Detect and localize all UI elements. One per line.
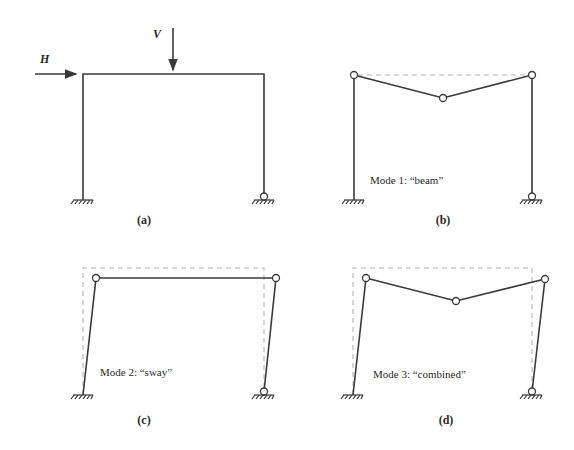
panel-c-caption: (c) [137,413,150,427]
mode-3-label: Mode 3: “combined” [373,368,466,380]
plastic-hinge-icon [93,275,100,282]
pin-support-icon [520,193,542,204]
panel-a-frame: H V (a) [35,27,274,227]
plastic-hinge-icon [363,275,370,282]
fixed-support-icon [71,395,93,399]
fixed-support-icon [71,200,93,204]
pin-support-icon [252,193,274,204]
left-column [353,278,366,395]
plastic-hinge-icon [351,72,358,79]
mode-2-label: Mode 2: “sway” [100,366,172,378]
mode-1-label: Mode 1: “beam” [370,174,443,186]
plastic-hinge-icon [529,72,536,79]
portal-frame [83,74,264,200]
panel-d-caption: (d) [439,413,454,427]
panel-c-sway-mode: Mode 2: “sway” (c) [71,268,280,427]
panel-b-beam-mode: Mode 1: “beam” (b) [342,72,542,228]
plastic-hinge-icon [453,298,460,305]
horizontal-load-label: H [39,52,50,66]
left-column [83,278,96,395]
fixed-support-icon [342,200,364,204]
panel-a-caption: (a) [137,213,151,227]
right-column [264,278,276,392]
right-column [532,279,545,392]
panel-b-caption: (b) [436,213,451,227]
plastic-hinge-icon [440,95,447,102]
fixed-support-icon [341,395,363,399]
pin-support-icon [252,388,274,399]
panel-d-combined-mode: Mode 3: “combined” (d) [341,268,549,427]
collapse-mechanisms-diagram: H V (a) Mode 1: “beam” (b) Mode 2: “sway… [0,0,574,450]
plastic-hinge-icon [273,275,280,282]
vertical-load-label: V [153,27,162,41]
pin-support-icon [520,388,542,399]
plastic-hinge-icon [542,276,549,283]
